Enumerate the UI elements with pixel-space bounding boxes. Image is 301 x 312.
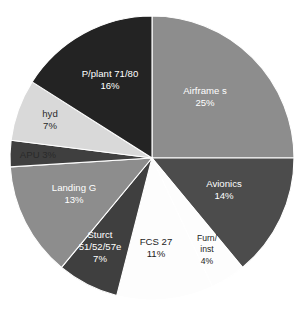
pie-slice-airframe-s[interactable] (152, 16, 294, 158)
pie-chart: Airframe s25%Avionics14%Furn/inst4%FCS 2… (0, 0, 301, 312)
pie-chart-canvas: Airframe s25%Avionics14%Furn/inst4%FCS 2… (0, 0, 301, 312)
pie-slices (10, 16, 294, 300)
